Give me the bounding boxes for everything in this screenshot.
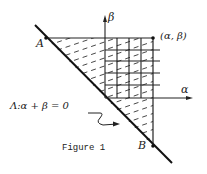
point-b-dot	[151, 144, 155, 148]
line-equation-label: Λ:α + β = 0	[10, 101, 69, 111]
alpha-axis-label: α	[181, 84, 188, 95]
corner-point-label: (α, β)	[160, 31, 187, 41]
hatching	[40, 8, 175, 172]
beta-axis-label: β	[108, 12, 114, 23]
figure-caption: Figure 1	[62, 144, 105, 153]
corner-point-dot	[151, 36, 155, 40]
pointer-arrow	[88, 113, 117, 125]
grid	[105, 38, 160, 98]
point-a-label: A	[36, 38, 44, 49]
point-a-dot	[44, 36, 48, 40]
point-b-label: B	[138, 140, 146, 151]
